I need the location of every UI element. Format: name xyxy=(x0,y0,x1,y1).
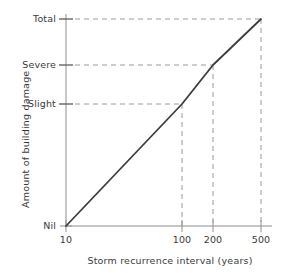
damage-trend-line xyxy=(66,19,261,226)
y-axis-title: Amount of building damage xyxy=(20,18,31,208)
x-tick-label-200: 200 xyxy=(197,234,229,245)
x-axis-title: Storm recurrence interval (years) xyxy=(60,255,280,266)
x-tick-label-10: 10 xyxy=(52,234,80,245)
y-tick-label-severe: Severe xyxy=(10,59,56,70)
x-tick-label-100: 100 xyxy=(166,234,198,245)
chart-figure: Total Severe Slight Nil 10 100 200 500 S… xyxy=(0,0,282,273)
damage-recurrence-line-chart xyxy=(0,0,282,273)
x-tick-label-500: 500 xyxy=(245,234,277,245)
y-tick-label-nil: Nil xyxy=(22,220,56,231)
